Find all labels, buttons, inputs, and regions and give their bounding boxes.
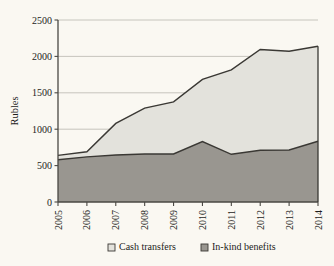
y-tick-label: 1000: [32, 124, 52, 135]
x-tick-label: 2011: [226, 210, 237, 230]
y-tick-label: 2000: [32, 51, 52, 62]
x-tick-label: 2014: [313, 210, 324, 230]
x-tick-label: 2009: [168, 210, 179, 230]
y-axis-label: Rubles: [9, 96, 20, 125]
x-tick-label: 2008: [139, 210, 150, 230]
x-tick-label: 2006: [81, 210, 92, 230]
x-tick-label: 2007: [110, 210, 121, 230]
legend-swatch-in-kind-benefits: [201, 244, 208, 251]
stacked-area-chart: 05001000150020002500 2005200620072008200…: [0, 0, 334, 266]
y-tick-label: 1500: [32, 87, 52, 98]
y-tick-label: 500: [37, 160, 52, 171]
x-tick-label: 2010: [197, 210, 208, 230]
chart-figure: 05001000150020002500 2005200620072008200…: [0, 0, 334, 266]
x-tick-label: 2005: [53, 210, 64, 230]
legend-label-cash-transfers: Cash transfers: [119, 241, 176, 252]
y-tick-label: 2500: [32, 15, 52, 26]
x-tick-label: 2013: [284, 210, 295, 230]
legend-swatch-cash-transfers: [108, 244, 115, 251]
y-tick-label: 0: [47, 197, 52, 208]
legend-label-in-kind-benefits: In-kind benefits: [212, 241, 276, 252]
x-tick-label: 2012: [255, 210, 266, 230]
y-axis-label-text: Rubles: [9, 96, 20, 125]
